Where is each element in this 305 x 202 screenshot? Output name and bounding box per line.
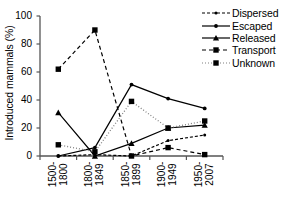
legend-item-unknown: Unknown: [201, 57, 305, 69]
x-tick-label-text: 1850-1899: [121, 162, 142, 188]
series-escaped: [56, 83, 206, 158]
chart-figure: Introduced mammals (%) DispersedEscapedR…: [0, 0, 305, 202]
x-tick-label-text: 1800-1849: [84, 162, 105, 188]
legend: DispersedEscapedReleasedTransportUnknown: [201, 7, 305, 69]
y-tick-label: 100: [10, 10, 32, 21]
x-tick-label: 1500-1800: [41, 164, 75, 202]
legend-item-escaped: Escaped: [201, 19, 305, 31]
x-tick-label-text: 1500-1800: [48, 162, 69, 188]
legend-key-icon: [201, 20, 231, 32]
series-transport: [56, 27, 208, 158]
legend-label: Released: [231, 32, 276, 44]
y-tick-label: 60: [10, 66, 32, 77]
x-tick-label: 1900-1949: [151, 164, 185, 202]
x-tick-label: 1950-2007: [188, 164, 222, 202]
y-tick-label: 40: [10, 94, 32, 105]
legend-item-transport: Transport: [201, 44, 305, 56]
legend-label: Transport: [231, 44, 276, 56]
legend-label: Dispersed: [231, 7, 278, 19]
x-tick-label-text: 1900-1949: [158, 162, 179, 188]
legend-key-icon: [201, 57, 231, 69]
y-tick-label: 80: [10, 38, 32, 49]
y-tick-label: 0: [10, 150, 32, 161]
legend-key-icon: [201, 44, 231, 56]
x-tick-label: 1850-1899: [115, 164, 149, 202]
legend-key-icon: [201, 32, 231, 44]
legend-item-released: Released: [201, 32, 305, 44]
x-tick-label: 1800-1849: [78, 164, 112, 202]
y-axis-title: Introduced mammals (%): [0, 0, 19, 165]
legend-key-icon: [201, 7, 231, 19]
x-tick-label-text: 1950-2007: [194, 162, 215, 188]
legend-item-dispersed: Dispersed: [201, 7, 305, 19]
legend-label: Unknown: [231, 57, 275, 69]
y-tick-label: 20: [10, 122, 32, 133]
legend-label: Escaped: [231, 20, 272, 32]
